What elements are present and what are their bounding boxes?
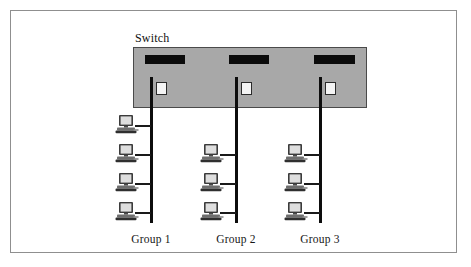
switch-port-3 — [325, 82, 336, 95]
trunk-cable-group-1 — [150, 77, 153, 223]
group-label-3: Group 3 — [300, 233, 339, 245]
connector-g3-2 — [304, 183, 320, 185]
switch-port-2 — [241, 82, 252, 95]
network-diagram-page: Switch — [0, 0, 471, 267]
connector-g2-3 — [220, 212, 236, 214]
trunk-cable-group-2 — [235, 77, 238, 223]
connector-g3-1 — [304, 154, 320, 156]
connector-g1-3 — [135, 183, 151, 185]
switch-device — [133, 47, 367, 108]
connector-g1-1 — [135, 125, 151, 127]
group-label-2: Group 2 — [216, 233, 255, 245]
diagram-frame: Switch — [10, 10, 457, 253]
group-label-1: Group 1 — [131, 233, 170, 245]
connector-g1-4 — [135, 212, 151, 214]
trunk-cable-group-3 — [319, 77, 322, 223]
switch-port-1 — [156, 82, 167, 95]
connector-g2-1 — [220, 154, 236, 156]
switch-slot-1 — [145, 55, 185, 64]
switch-label: Switch — [135, 31, 170, 46]
connector-g3-3 — [304, 212, 320, 214]
connector-g2-2 — [220, 183, 236, 185]
switch-slot-3 — [314, 55, 355, 64]
connector-g1-2 — [135, 154, 151, 156]
switch-slot-2 — [229, 55, 269, 64]
